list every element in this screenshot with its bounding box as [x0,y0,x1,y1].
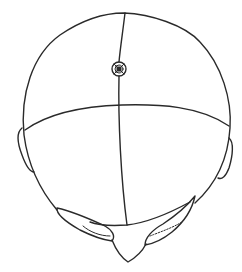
head-illustration [0,0,242,272]
nose [112,240,146,262]
marker-point-icon [112,62,126,76]
sagittal-line [119,13,127,225]
left-eyebrow-inner [83,226,110,236]
brow-ridge [90,202,190,226]
head-top-view-figure [0,0,242,272]
coronal-line [25,105,229,130]
right-ear [218,138,232,179]
